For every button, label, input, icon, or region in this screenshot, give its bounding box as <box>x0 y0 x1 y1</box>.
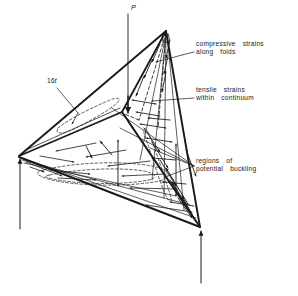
figure-root: P 16t compressive strainsalong folds ten… <box>0 0 298 296</box>
right-face-group <box>124 34 196 222</box>
tetrahedron-fold-edges <box>19 31 200 227</box>
fold-inner-left <box>19 112 122 156</box>
annotation-compressive-line2: along folds <box>196 48 264 56</box>
thickness-number: 16 <box>47 77 55 84</box>
thickness-label: 16t <box>47 77 57 85</box>
band-line-upper <box>24 108 120 151</box>
tetrahedron-outer-edges <box>19 31 200 227</box>
annotation-compressive-line1: compressive strains <box>196 40 264 48</box>
load-label-P: P <box>131 4 136 12</box>
annotation-buckling-regions: regions ofpotential buckling <box>196 157 256 173</box>
leader-line-icon-compressive <box>182 52 194 55</box>
leader-line-icon-thickness <box>57 88 78 113</box>
annotation-tensile-strains: tensile strainswithin continuum <box>196 86 254 102</box>
annotation-tensile-line1: tensile strains <box>196 86 254 94</box>
bottom-face-group <box>22 140 196 218</box>
annotation-buckling-line1: regions of <box>196 157 256 165</box>
edge-apex-left <box>19 31 166 156</box>
thickness-symbol: t <box>55 77 57 84</box>
annotation-compressive-strains: compressive strainsalong folds <box>196 40 264 56</box>
annotation-buckling-line2: potential buckling <box>196 165 256 173</box>
right-face-guides <box>124 34 196 222</box>
annotation-tensile-line2: within continuum <box>196 94 254 102</box>
